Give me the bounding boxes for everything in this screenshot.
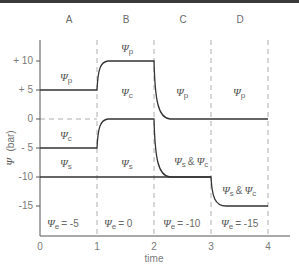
label-psi-s-c-d: Ψs&Ψc (222, 184, 256, 198)
y-tick-label: -10 (19, 171, 34, 182)
label-psi-s-a: Ψs (60, 157, 72, 171)
y-tick-label: - 5 (21, 142, 33, 153)
label-psi-c-a: Ψc (60, 129, 72, 143)
phase-label-d: D (236, 14, 243, 25)
phase-label-a: A (66, 14, 73, 25)
phase-label-c: C (179, 14, 186, 25)
y-tick-label: -15 (19, 200, 34, 211)
label-psi-e-c: Ψe= -10 (163, 217, 201, 231)
y-axis-title: Ψ (bar) (0, 130, 17, 165)
label-psi-p-a: Ψp (60, 71, 73, 85)
x-tick-label: 2 (151, 241, 157, 252)
label-psi-s-b: Ψs (121, 157, 133, 171)
y-tick-label: + 5 (19, 84, 34, 95)
label-psi-e-b: Ψe= 0 (104, 217, 133, 231)
label-psi-c-b: Ψc (121, 86, 133, 100)
y-tick-label: 0 (27, 113, 33, 124)
x-tick-label: 4 (265, 241, 271, 252)
psi-c-line (40, 119, 268, 206)
label-psi-p-b: Ψp (121, 42, 134, 56)
label-psi-s-c-c: Ψs&Ψc (174, 155, 208, 169)
water-potential-chart: A B C D + 10 + 5 0 - 5 -10 -15 Ψ (bar) 0… (0, 0, 299, 270)
label-psi-p-d: Ψp (233, 86, 246, 100)
x-tick-label: 3 (208, 241, 214, 252)
label-psi-e-d: Ψe= -15 (221, 217, 259, 231)
y-tick-label: + 10 (13, 55, 33, 66)
x-tick-label: 1 (94, 241, 100, 252)
label-psi-e-a: Ψe= -5 (47, 217, 79, 231)
phase-label-b: B (123, 14, 130, 25)
x-tick-label: 0 (37, 241, 43, 252)
svg-text:Ψ (bar): Ψ (bar) (0, 130, 17, 165)
x-axis-title: time (145, 253, 164, 264)
label-psi-p-c: Ψp (176, 86, 189, 100)
